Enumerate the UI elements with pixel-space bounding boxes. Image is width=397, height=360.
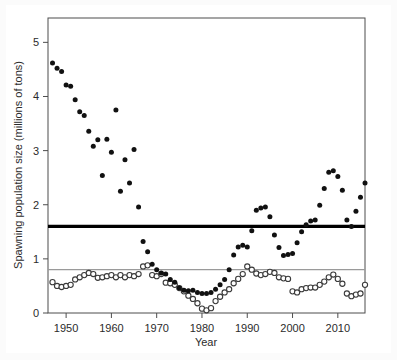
chart-page: 012345 1950196019701980199020002010 Year… xyxy=(0,0,397,360)
data-point xyxy=(213,298,218,303)
data-point xyxy=(55,66,60,71)
data-point xyxy=(249,267,254,272)
data-point xyxy=(190,288,195,293)
data-point xyxy=(141,239,146,244)
data-point xyxy=(363,181,368,186)
data-point xyxy=(249,228,254,233)
data-point xyxy=(91,271,96,276)
data-point xyxy=(353,209,358,214)
plot-panel-frame xyxy=(48,18,365,313)
data-point xyxy=(263,204,268,209)
data-point xyxy=(290,251,295,256)
data-point xyxy=(199,291,204,296)
data-point xyxy=(322,279,327,284)
scatter-plot: 012345 1950196019701980199020002010 Year… xyxy=(6,5,391,353)
data-point xyxy=(73,97,78,102)
y-axis-title: Spawning population size (millions of to… xyxy=(12,61,24,269)
data-point xyxy=(122,157,127,162)
data-point xyxy=(267,214,272,219)
data-point xyxy=(340,188,345,193)
data-point xyxy=(344,217,349,222)
data-point xyxy=(240,271,245,276)
data-point xyxy=(272,270,277,275)
data-point xyxy=(245,244,250,249)
data-point xyxy=(132,147,137,152)
x-axis-title: Year xyxy=(195,336,218,348)
data-point xyxy=(218,282,223,287)
data-point xyxy=(136,204,141,209)
data-point xyxy=(150,262,155,267)
data-point xyxy=(68,282,73,287)
data-point xyxy=(100,173,105,178)
data-point xyxy=(195,301,200,306)
y-tick-label: 5 xyxy=(33,36,39,48)
data-point xyxy=(159,270,164,275)
y-tick-label: 2 xyxy=(33,199,39,211)
data-point xyxy=(227,287,232,292)
data-point xyxy=(299,229,304,234)
data-point xyxy=(317,203,322,208)
x-tick-label: 1970 xyxy=(144,322,168,334)
x-tick-label: 1990 xyxy=(235,322,259,334)
data-point xyxy=(254,208,259,213)
data-point xyxy=(272,233,277,238)
data-point xyxy=(313,217,318,222)
data-point xyxy=(295,240,300,245)
y-tick-label: 1 xyxy=(33,253,39,265)
y-tick-label: 3 xyxy=(33,145,39,157)
data-point xyxy=(113,108,118,113)
data-point xyxy=(285,276,290,281)
data-point xyxy=(50,60,55,65)
data-point xyxy=(50,280,55,285)
data-point xyxy=(335,276,340,281)
data-point xyxy=(104,137,109,142)
data-point xyxy=(236,276,241,281)
data-point xyxy=(286,252,291,257)
x-tick-label: 1980 xyxy=(190,322,214,334)
data-point xyxy=(362,282,367,287)
data-point xyxy=(358,195,363,200)
data-point xyxy=(127,181,132,186)
data-point xyxy=(222,277,227,282)
data-point xyxy=(358,291,363,296)
data-point xyxy=(240,243,245,248)
data-point xyxy=(195,290,200,295)
data-point xyxy=(77,109,82,114)
data-point xyxy=(281,253,286,258)
data-point xyxy=(326,170,331,175)
data-point xyxy=(258,205,263,210)
data-point xyxy=(118,189,123,194)
data-point xyxy=(172,280,177,285)
data-point xyxy=(209,290,214,295)
data-point xyxy=(331,168,336,173)
data-point xyxy=(163,272,168,277)
data-point xyxy=(349,224,354,229)
data-point xyxy=(308,218,313,223)
data-point xyxy=(59,69,64,74)
data-point xyxy=(68,84,73,89)
data-point xyxy=(276,245,281,250)
y-axis-ticks-group: 012345 xyxy=(33,36,48,319)
data-point xyxy=(168,277,173,282)
data-point xyxy=(322,186,327,191)
data-point xyxy=(227,267,232,272)
data-point xyxy=(217,294,222,299)
figure-surface: 012345 1950196019701980199020002010 Year… xyxy=(6,5,391,353)
data-point xyxy=(208,306,213,311)
data-point xyxy=(304,222,309,227)
y-tick-label: 0 xyxy=(33,307,39,319)
data-point xyxy=(154,267,159,272)
data-point xyxy=(91,144,96,149)
filled-circle-series xyxy=(50,60,367,296)
data-point xyxy=(335,174,340,179)
data-point xyxy=(109,150,114,155)
data-point xyxy=(204,291,209,296)
x-tick-label: 2010 xyxy=(326,322,350,334)
data-point xyxy=(177,286,182,291)
data-point xyxy=(95,137,100,142)
data-point xyxy=(213,287,218,292)
data-point xyxy=(190,296,195,301)
data-point xyxy=(145,249,150,254)
data-point xyxy=(331,272,336,277)
data-point xyxy=(181,288,186,293)
